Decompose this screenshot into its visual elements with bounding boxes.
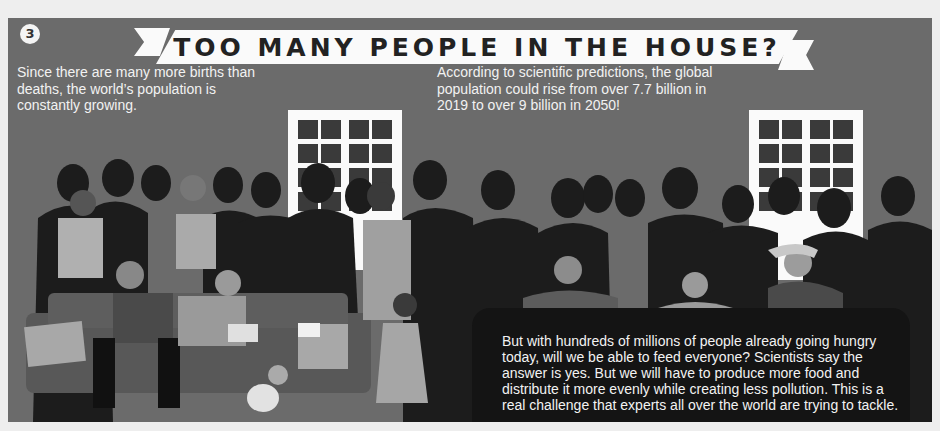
page-title: TOO MANY PEOPLE IN THE HOUSE? [173, 33, 781, 62]
infographic-panel: 3 TOO MANY PEOPLE IN THE HOUSE? Since th… [8, 18, 932, 422]
title-banner: TOO MANY PEOPLE IN THE HOUSE? [156, 30, 798, 64]
section-number-badge: 3 [20, 24, 40, 44]
bottom-paragraph: But with hundreds of millions of people … [502, 333, 902, 413]
intro-left-text: Since there are many more births than de… [17, 64, 277, 114]
intro-right-text: According to scientific predictions, the… [437, 64, 737, 114]
